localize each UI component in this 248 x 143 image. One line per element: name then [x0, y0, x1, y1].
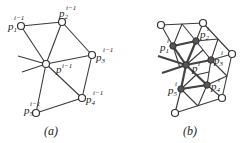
panel-a: p1 i−1 p2 i−1 p3 i−1 p4 i−1 p5 i−1 p i−1… — [7, 4, 113, 138]
node-a-p5 — [33, 110, 40, 117]
node-b-outer-5 — [172, 110, 179, 117]
svg-text:i: i — [207, 25, 209, 33]
svg-text:i: i — [175, 80, 177, 88]
label-a-p1: p1 — [7, 20, 17, 34]
node-b-center — [183, 62, 189, 68]
node-b-outer-3 — [229, 51, 236, 58]
panel-b: p1 i p2 i p3 i p4 i p5 i p i (b) — [158, 20, 236, 139]
node-a-p1 — [18, 23, 25, 30]
node-b-outer-2 — [200, 20, 207, 27]
node-a-p3 — [89, 52, 96, 59]
label-b-center: p — [191, 62, 198, 74]
node-b-p1 — [170, 43, 176, 49]
svg-text:i: i — [167, 37, 169, 45]
caption-b: (b) — [183, 124, 197, 138]
caption-a: (a) — [44, 124, 58, 138]
svg-text:i−1: i−1 — [93, 89, 103, 97]
svg-text:i: i — [221, 49, 223, 57]
diagram-canvas: p1 i−1 p2 i−1 p3 i−1 p4 i−1 p5 i−1 p i−1… — [0, 0, 248, 143]
svg-text:i−1: i−1 — [14, 14, 24, 22]
node-b-outer-4 — [219, 95, 226, 102]
svg-text:i−1: i−1 — [62, 62, 72, 70]
svg-text:i: i — [218, 76, 220, 84]
node-b-p2 — [193, 38, 199, 44]
svg-text:i: i — [198, 60, 200, 68]
node-a-center — [43, 61, 50, 68]
svg-text:i−1: i−1 — [66, 4, 76, 12]
label-a-center: p — [55, 63, 62, 75]
node-a-p4 — [79, 95, 86, 102]
node-b-p4 — [204, 82, 210, 88]
node-b-p5 — [178, 86, 184, 92]
svg-text:i−1: i−1 — [30, 100, 40, 108]
svg-text:i−1: i−1 — [103, 46, 113, 54]
node-b-outer-1 — [158, 22, 165, 29]
